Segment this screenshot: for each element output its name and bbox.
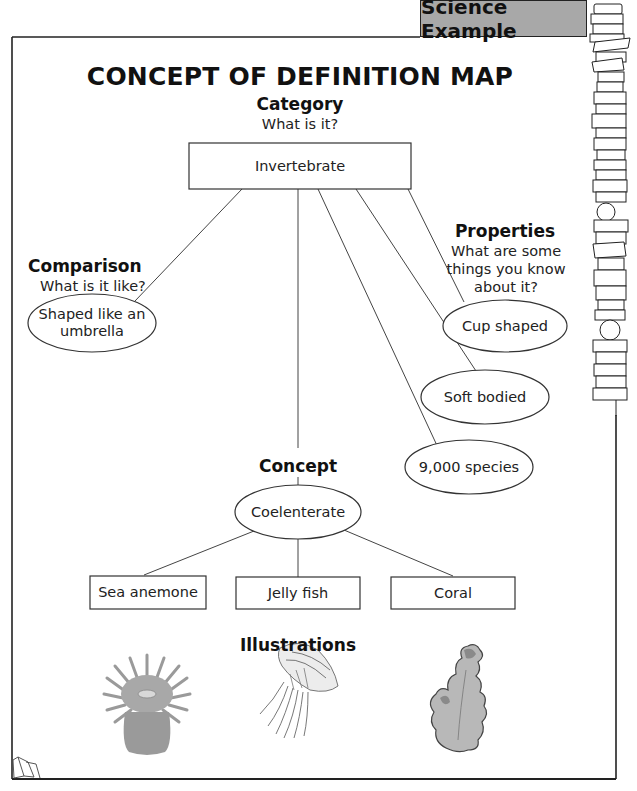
- illustrations-heading: Illustrations: [230, 635, 366, 655]
- properties-question-line-2: things you know: [440, 260, 572, 278]
- category-heading: Category: [200, 94, 400, 114]
- page-title: CONCEPT OF DEFINITION MAP: [0, 62, 600, 91]
- science-example-banner: Science Example: [420, 0, 587, 37]
- comparison-question: What is it like?: [40, 277, 180, 295]
- properties-question-line-3: about it?: [440, 278, 572, 296]
- coral-illustration: [430, 645, 486, 752]
- comparison-heading: Comparison: [28, 256, 178, 276]
- concept-value: Coelenterate: [235, 485, 361, 539]
- example-jelly-fish: Jelly fish: [236, 577, 360, 609]
- jellyfish-illustration: [260, 643, 338, 738]
- open-book-icon: [13, 757, 40, 778]
- comparison-value: Shaped like an umbrella: [36, 300, 148, 346]
- property-cup-shaped: Cup shaped: [443, 300, 567, 352]
- sea-anemone-illustration: [104, 655, 190, 755]
- property-9000-species: 9,000 species: [405, 440, 533, 494]
- property-soft-bodied: Soft bodied: [421, 370, 549, 424]
- example-sea-anemone: Sea anemone: [90, 576, 206, 609]
- banner-label: Science Example: [421, 0, 586, 43]
- category-question: What is it?: [200, 115, 400, 133]
- properties-heading: Properties: [450, 221, 560, 241]
- example-coral: Coral: [391, 577, 515, 609]
- category-value: Invertebrate: [189, 143, 411, 189]
- properties-question-line-1: What are some: [440, 242, 572, 260]
- concept-heading: Concept: [240, 456, 356, 476]
